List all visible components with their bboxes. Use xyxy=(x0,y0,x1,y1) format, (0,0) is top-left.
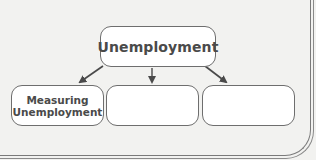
child-node-3-empty xyxy=(202,85,295,126)
child-node-1-label-line1: Measuring xyxy=(13,94,103,106)
child-node-measuring-unemployment: Measuring Unemployment xyxy=(11,85,104,126)
connector-arrows xyxy=(0,0,316,160)
root-node-unemployment: Unemployment xyxy=(100,26,216,67)
child-node-1-label-line2: Unemployment xyxy=(13,106,103,118)
root-node-label: Unemployment xyxy=(98,39,219,55)
arrow-to-child-1 xyxy=(80,66,103,82)
child-node-2-empty xyxy=(106,85,199,126)
arrow-to-child-3 xyxy=(205,66,226,82)
